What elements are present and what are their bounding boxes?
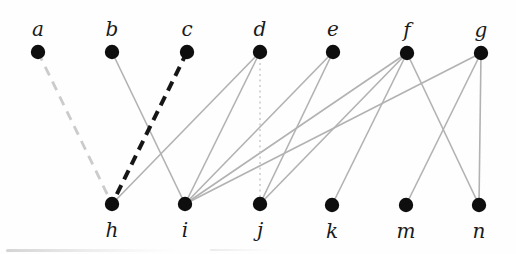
edge-a-h <box>38 52 112 204</box>
node-j <box>253 197 267 211</box>
edge-d-h <box>112 52 260 204</box>
edge-g-n <box>479 53 481 205</box>
edge-f-k <box>332 53 407 205</box>
label-k: k <box>326 219 338 243</box>
label-f: f <box>401 18 414 42</box>
edge-e-i <box>185 52 333 204</box>
node-a <box>31 45 45 59</box>
node-c <box>180 45 194 59</box>
node-h <box>105 197 119 211</box>
label-e: e <box>327 17 339 41</box>
label-j: j <box>253 218 263 242</box>
node-n <box>472 198 486 212</box>
label-a: a <box>32 17 44 41</box>
edge-g-i <box>185 53 481 204</box>
node-i <box>178 197 192 211</box>
label-g: g <box>475 18 488 42</box>
node-f <box>400 46 414 60</box>
label-h: h <box>106 218 119 242</box>
node-d <box>253 45 267 59</box>
edge-d-i <box>185 52 260 204</box>
label-c: c <box>181 17 192 41</box>
node-g <box>474 46 488 60</box>
figure: abcdefghijkmn <box>0 0 516 254</box>
node-k <box>325 198 339 212</box>
bipartite-graph: abcdefghijkmn <box>0 0 516 254</box>
label-m: m <box>397 219 416 243</box>
label-d: d <box>254 17 267 41</box>
label-b: b <box>106 17 119 41</box>
label-i: i <box>182 218 188 242</box>
scan-artifact <box>6 249 176 252</box>
node-e <box>326 45 340 59</box>
scan-artifact <box>210 249 270 251</box>
label-n: n <box>473 219 486 243</box>
edge-f-i <box>185 53 407 204</box>
node-m <box>399 198 413 212</box>
node-b <box>105 45 119 59</box>
